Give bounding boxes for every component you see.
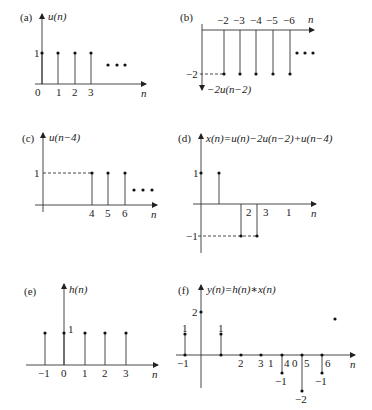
panel-c-plot (35, 133, 157, 212)
panel-e-plot (26, 284, 158, 365)
x-axis-label: n (350, 359, 356, 370)
panel-d-tag: (d) (178, 133, 191, 144)
panel-e-title: h(n) (69, 284, 87, 295)
tick-label: 4 (284, 358, 290, 369)
tick-label: −4 (250, 15, 262, 26)
panel-f-title: y(n)=h(n)∗x(n) (207, 284, 276, 295)
value-label: 2 (192, 307, 198, 318)
panel-c-ylabel: 1 (34, 168, 40, 179)
panel-a-tag: (a) (20, 12, 32, 23)
panel-f-tag: (f) (178, 285, 189, 296)
panel-e-ylabel: 1 (68, 324, 74, 335)
x-axis-label: n (141, 88, 147, 99)
panel-b-title: −2u(n−2) (207, 84, 251, 95)
x-axis-label: n (308, 14, 314, 25)
ellipsis-dot (106, 63, 109, 66)
tick-label: −3 (233, 15, 245, 26)
tick-label: 5 (105, 208, 111, 219)
panel-d-ylabel-neg: −1 (186, 231, 198, 242)
value-label: 1 (218, 323, 224, 334)
panel-a-ylabel: 1 (34, 48, 40, 59)
tick-label: 1 (82, 368, 88, 379)
tick-label: −1 (38, 368, 50, 379)
panel-d-title: x(n)=u(n)−2u(n−2)+u(n−4) (206, 133, 332, 144)
tick-label: 4 (89, 208, 95, 219)
tick-label: 0 (35, 87, 41, 98)
panel-a-title: u(n) (48, 11, 66, 22)
tick-label: −2 (217, 15, 229, 26)
tick-label: 3 (88, 87, 94, 98)
panel-e-tag: (e) (24, 286, 36, 297)
tick-label: 2 (102, 368, 108, 379)
panel-b-ylabel: −2 (186, 69, 198, 80)
tick-label: 3 (258, 358, 264, 369)
tick-label: 2 (72, 87, 78, 98)
tick-label: 1 (286, 207, 292, 218)
panel-c-tag: (c) (22, 133, 34, 144)
tick-label: 1 (56, 87, 62, 98)
tick-label: 3 (123, 368, 129, 379)
tick-label: 2 (238, 358, 244, 369)
tick-label: 1 (268, 358, 274, 369)
tick-label: −5 (266, 15, 278, 26)
tick-label: 3 (263, 207, 269, 218)
value-label: −2 (295, 394, 307, 405)
tick-label: −1 (177, 358, 189, 369)
panel-d-plot (193, 134, 316, 253)
panel-b-tag: (b) (180, 12, 193, 23)
tick-label: −6 (283, 15, 295, 26)
panel-f-plot (176, 285, 355, 391)
value-label: −1 (275, 376, 287, 387)
tick-label: 6 (122, 208, 128, 219)
x-axis-label: n (311, 208, 317, 219)
panel-d-ylabel: 1 (193, 168, 199, 179)
tick-label: 6 (325, 358, 331, 369)
tick-label: 5 (304, 358, 310, 369)
value-label: −1 (315, 376, 327, 387)
x-axis-label: n (152, 369, 158, 380)
tick-label: 0 (61, 368, 67, 379)
tick-label: 2 (246, 207, 252, 218)
figure-canvas (0, 0, 372, 410)
panel-b-plot (200, 24, 314, 90)
panel-a-plot (35, 14, 146, 84)
tick-label: 0 (292, 358, 298, 369)
value-label: 1 (182, 323, 188, 334)
x-axis-label: n (151, 209, 157, 220)
panel-c-title: u(n−4) (49, 132, 80, 143)
